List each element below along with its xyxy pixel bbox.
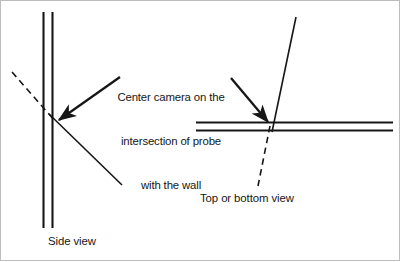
top-bottom-view-probe-solid-segment <box>272 17 296 132</box>
top-bottom-view-caption: Top or bottom view <box>200 191 294 206</box>
callout-text-line-2: intersection of probe <box>101 134 241 149</box>
side-view-probe-dashed-segment <box>12 72 55 121</box>
side-view-caption: Side view <box>48 234 96 249</box>
top-bottom-view-probe-dashed-segment <box>258 126 270 186</box>
diagram-canvas: Center camera on the intersection of pro… <box>0 0 401 262</box>
callout-text-line-1: Center camera on the <box>101 90 241 105</box>
